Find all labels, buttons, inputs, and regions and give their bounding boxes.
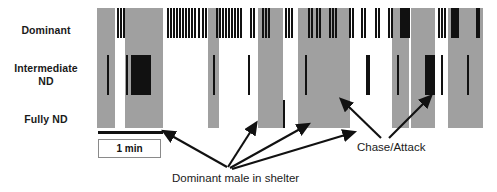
event-tick-dominant bbox=[253, 8, 255, 38]
shelter-block bbox=[97, 8, 115, 128]
event-tick-dominant bbox=[182, 8, 184, 38]
event-tick-intermediate bbox=[213, 55, 215, 95]
event-tick-dominant bbox=[349, 8, 351, 38]
event-tick-dominant bbox=[231, 8, 233, 38]
event-tick-dominant bbox=[185, 8, 187, 38]
event-tick-dominant bbox=[179, 8, 181, 38]
event-tick-dominant bbox=[364, 8, 366, 38]
annotation-chase-attack: Chase/Attack bbox=[357, 141, 425, 153]
event-tick-intermediate bbox=[441, 55, 443, 95]
event-tick-intermediate bbox=[305, 55, 307, 95]
event-tick-dominant bbox=[120, 8, 122, 38]
event-tick-dominant bbox=[240, 8, 242, 38]
event-tick-dominant bbox=[335, 8, 337, 38]
row-label-dominant: Dominant bbox=[0, 24, 92, 37]
event-tick-dominant bbox=[219, 8, 221, 38]
event-tick-dominant bbox=[311, 8, 313, 38]
event-tick-dominant bbox=[173, 8, 175, 38]
event-tick-intermediate bbox=[433, 55, 435, 95]
event-tick-dominant bbox=[478, 8, 480, 38]
event-tick-dominant bbox=[438, 8, 440, 38]
event-tick-dominant bbox=[237, 8, 239, 38]
event-tick-dominant bbox=[117, 8, 119, 38]
event-tick-dominant bbox=[375, 8, 377, 38]
event-tick-dominant bbox=[170, 8, 172, 38]
event-tick-dominant bbox=[167, 8, 169, 38]
event-tick-dominant bbox=[391, 8, 393, 38]
event-tick-fully bbox=[283, 100, 285, 128]
event-tick-dominant bbox=[205, 8, 207, 38]
event-tick-dominant bbox=[457, 8, 459, 38]
event-tick-dominant bbox=[262, 8, 264, 38]
event-tick-dominant bbox=[202, 8, 204, 38]
figure-canvas: Dominant Intermediate ND Fully ND 1 min … bbox=[0, 0, 497, 192]
event-tick-intermediate bbox=[248, 55, 250, 95]
event-tick-dominant bbox=[288, 8, 290, 38]
row-label-intermediate: Intermediate ND bbox=[0, 62, 92, 87]
event-tick-dominant bbox=[250, 8, 252, 38]
event-tick-dominant bbox=[188, 8, 190, 38]
event-tick-intermediate bbox=[368, 55, 370, 95]
event-tick-intermediate bbox=[107, 55, 109, 95]
shelter-arrow-group bbox=[172, 129, 345, 169]
event-tick-intermediate bbox=[149, 55, 151, 95]
scale-bar-label: 1 min bbox=[98, 139, 161, 158]
event-tick-dominant bbox=[319, 8, 321, 38]
raster-plot-area bbox=[95, 0, 497, 134]
event-tick-dominant bbox=[308, 8, 310, 38]
event-tick-dominant bbox=[361, 8, 363, 38]
event-tick-dominant bbox=[194, 8, 196, 38]
event-tick-dominant bbox=[268, 8, 270, 38]
event-tick-dominant bbox=[222, 8, 224, 38]
event-tick-dominant bbox=[444, 8, 446, 38]
event-tick-dominant bbox=[352, 8, 354, 38]
event-tick-dominant bbox=[225, 8, 227, 38]
annotation-dominant-male-in-shelter: Dominant male in shelter bbox=[172, 172, 299, 184]
event-tick-dominant bbox=[316, 8, 318, 38]
event-tick-dominant bbox=[291, 8, 293, 38]
event-tick-intermediate bbox=[126, 55, 128, 95]
event-tick-dominant bbox=[228, 8, 230, 38]
event-tick-dominant bbox=[441, 8, 443, 38]
event-tick-dominant bbox=[123, 8, 125, 38]
event-tick-dominant bbox=[216, 8, 218, 38]
event-tick-dominant bbox=[329, 8, 331, 38]
event-tick-dominant bbox=[332, 8, 334, 38]
row-label-fully: Fully ND bbox=[0, 113, 92, 126]
event-tick-dominant bbox=[176, 8, 178, 38]
event-tick-dominant bbox=[198, 8, 200, 38]
scale-bar bbox=[98, 131, 163, 134]
event-tick-dominant bbox=[265, 8, 267, 38]
event-tick-intermediate bbox=[397, 55, 399, 95]
event-tick-dominant bbox=[378, 8, 380, 38]
event-tick-dominant bbox=[408, 8, 410, 38]
event-tick-dominant bbox=[388, 8, 390, 38]
event-tick-intermediate bbox=[467, 55, 469, 95]
event-tick-dominant bbox=[191, 8, 193, 38]
event-tick-dominant bbox=[285, 8, 287, 38]
event-tick-dominant bbox=[234, 8, 236, 38]
